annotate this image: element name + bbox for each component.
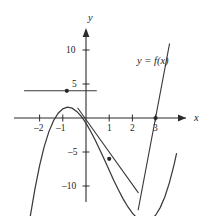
marked-point-x1: [107, 157, 111, 161]
x-axis-arrowhead: [178, 115, 186, 122]
tangent-line-at-x1: [78, 108, 138, 192]
x-tick-label--1: –1: [56, 124, 66, 134]
x-tick-label-2: 2: [130, 124, 135, 134]
y-axis-arrowhead: [83, 28, 90, 37]
x-tick-label--2: –2: [34, 124, 44, 134]
y-tick-label--5: –5: [68, 148, 78, 158]
x-tick-label-3: 3: [153, 124, 158, 134]
y-tick-label--10: –10: [62, 182, 76, 192]
graph-figure: y x 10 5 –5 –10 –2 –1 1 2 3 y = f(x): [0, 0, 216, 216]
y-axis-label: y: [88, 13, 93, 24]
function-label: y = f(x): [137, 56, 169, 67]
marked-point-local-max: [65, 89, 69, 93]
graph-canvas: [0, 0, 216, 216]
y-tick-label-10: 10: [66, 46, 76, 56]
marked-point-x3: [154, 116, 158, 120]
x-axis-label: x: [194, 113, 199, 124]
y-tick-label-5: 5: [72, 80, 77, 90]
x-tick-label-1: 1: [107, 124, 112, 134]
